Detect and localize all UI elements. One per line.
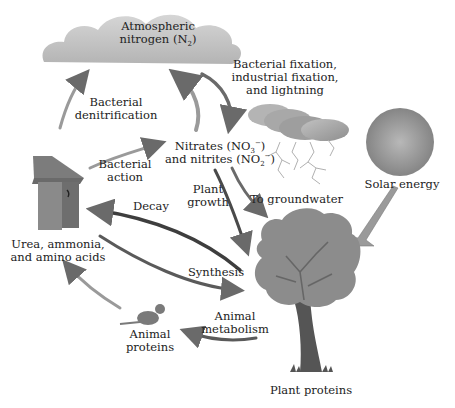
arrow-fixation	[202, 74, 231, 124]
outhouse-icon	[32, 156, 84, 230]
animal-icon	[120, 304, 165, 325]
arrow-nitrates-to-atmosphere	[178, 76, 198, 130]
groundwater-label: To groundwater	[250, 193, 340, 206]
plant-growth-label: Plant growth	[185, 183, 231, 209]
animal-metabolism-label: Animal metabolism	[200, 310, 270, 336]
nitrogen-cycle-diagram: Atmospheric nitrogen (N2) Bacterial fixa…	[0, 0, 455, 408]
arrow-synthesis	[100, 236, 236, 290]
nitrates-nitrites-label: Nitrates (NO3−) and nitrites (NO2−)	[165, 140, 275, 166]
tree-icon	[255, 208, 361, 372]
animal-proteins-label: Animal proteins	[120, 328, 180, 354]
arrow-decay	[96, 210, 240, 270]
plant-proteins-label: Plant proteins	[266, 384, 356, 397]
lightning-icon	[268, 140, 334, 184]
solar-energy-label: Solar energy	[362, 178, 442, 191]
sun-icon	[366, 108, 434, 176]
atmospheric-nitrogen-label: Atmospheric nitrogen (N2)	[108, 20, 208, 46]
arrow-animal-to-urea	[68, 266, 120, 308]
bacterial-action-label: Bacterial action	[90, 158, 160, 184]
urea-ammonia-label: Urea, ammonia, and amino acids	[6, 238, 110, 264]
denitrification-label: Bacterial denitrification	[66, 96, 166, 122]
decay-label: Decay	[126, 200, 176, 213]
synthesis-label: Synthesis	[186, 266, 246, 279]
fixation-label: Bacterial fixation, industrial fixation,…	[230, 58, 340, 97]
